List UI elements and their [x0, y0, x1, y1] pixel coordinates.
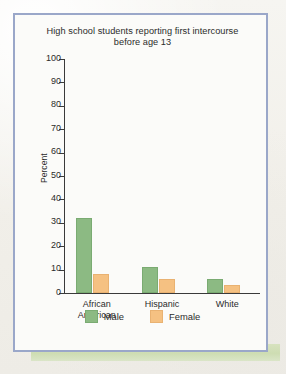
bar-female-hispanic — [159, 279, 175, 293]
bar-female-african-american — [93, 274, 109, 293]
chart-figure: High school students reporting first int… — [13, 13, 268, 352]
y-axis-line — [64, 59, 65, 294]
y-tick-label: 50 — [51, 170, 61, 180]
y-tick-label: 70 — [51, 123, 61, 133]
y-axis-title: Percent — [39, 153, 49, 183]
legend-item-male: Male — [85, 310, 124, 323]
chart-title-line-1: High school students reporting first int… — [35, 26, 250, 37]
bar-male-african-american — [76, 218, 92, 293]
y-tick-label: 20 — [51, 240, 61, 250]
category-label-line: White — [195, 299, 260, 310]
x-axis-line — [64, 293, 260, 294]
y-tick-label: 30 — [51, 216, 61, 226]
y-tick-label: 80 — [51, 99, 61, 109]
chart-legend: Male Female — [15, 310, 270, 323]
chart-title-line-2: before age 13 — [35, 37, 250, 48]
category-label-hispanic: Hispanic — [129, 299, 194, 310]
legend-label-female: Female — [169, 311, 200, 322]
bar-male-hispanic — [142, 267, 158, 293]
legend-swatch-female-icon — [150, 310, 163, 323]
bar-female-white — [224, 285, 240, 293]
chart-title: High school students reporting first int… — [35, 26, 250, 49]
legend-label-male: Male — [104, 311, 124, 322]
y-tick-label: 10 — [51, 263, 61, 273]
y-tick-label: 90 — [51, 76, 61, 86]
category-label-line: African — [64, 299, 129, 310]
y-tick-label: 60 — [51, 146, 61, 156]
plot-area: 1009080706050403020100 AfricanAmericanHi… — [64, 59, 260, 294]
y-tick-label: 0 — [56, 287, 61, 297]
category-label-white: White — [195, 299, 260, 310]
category-label-line: Hispanic — [129, 299, 194, 310]
y-tick-label: 100 — [46, 53, 61, 63]
legend-item-female: Female — [150, 310, 200, 323]
y-tick-label: 40 — [51, 193, 61, 203]
legend-swatch-male-icon — [85, 310, 98, 323]
bar-male-white — [207, 279, 223, 293]
